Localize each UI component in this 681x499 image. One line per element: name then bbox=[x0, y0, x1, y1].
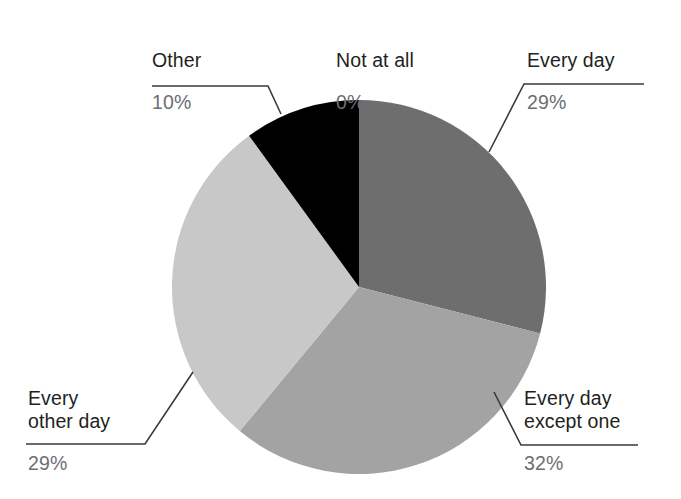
callout-every-day-except-one-category: Every day except one bbox=[524, 387, 620, 433]
callout-not-at-all-category: Not at all bbox=[336, 49, 414, 72]
callout-every-day: Every day 29% bbox=[527, 30, 615, 133]
callout-every-other-day-percent: 29% bbox=[28, 452, 110, 475]
callout-not-at-all: Not at all 0% bbox=[336, 30, 414, 133]
callout-other-category: Other bbox=[152, 49, 201, 72]
callout-every-day-except-one: Every day except one 32% bbox=[524, 368, 620, 494]
callout-other: Other 10% bbox=[152, 30, 201, 133]
callout-every-other-day: Every other day 29% bbox=[28, 368, 110, 494]
callout-not-at-all-percent: 0% bbox=[336, 91, 414, 114]
callout-other-percent: 10% bbox=[152, 91, 201, 114]
callout-every-other-day-category: Every other day bbox=[28, 387, 110, 433]
callout-every-day-percent: 29% bbox=[527, 91, 615, 114]
pie-chart-page: Other 10% Not at all 0% Every day 29% Ev… bbox=[0, 0, 681, 499]
callout-every-day-category: Every day bbox=[527, 49, 615, 72]
callout-every-day-except-one-percent: 32% bbox=[524, 452, 620, 475]
